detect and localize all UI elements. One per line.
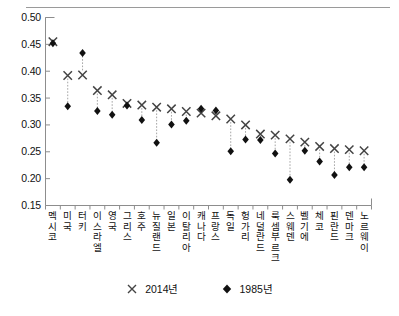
data-point-1985	[153, 139, 160, 147]
data-point-1985	[183, 117, 190, 125]
data-point-2014	[241, 121, 249, 129]
data-point-2014	[360, 147, 368, 155]
x-axis-category-label: 그리스	[121, 211, 134, 243]
x-axis-category-label: 미국	[61, 211, 74, 232]
data-point-2014	[167, 105, 175, 113]
data-point-1985	[227, 147, 234, 155]
x-axis-category-label: 캐나다	[195, 211, 208, 243]
data-point-2014	[315, 142, 323, 150]
y-axis-tick-label: 0.25	[11, 146, 41, 157]
x-axis-category-label: 룩셈부르크	[269, 211, 282, 264]
data-point-1985	[287, 176, 294, 184]
x-axis-category-label: 멕시코	[46, 211, 59, 243]
data-point-1985	[302, 147, 309, 155]
data-point-1985	[242, 135, 249, 143]
y-axis-tick-label: 0.20	[11, 173, 41, 184]
chart-legend: 2014년 1985년	[0, 283, 399, 295]
data-point-1985	[109, 111, 116, 119]
data-point-2014	[108, 91, 116, 99]
data-point-2014	[78, 71, 86, 79]
x-cross-marker-icon	[126, 283, 138, 295]
data-point-1985	[346, 163, 353, 171]
legend-label-1985: 1985년	[240, 284, 273, 295]
data-point-2014	[138, 101, 146, 109]
x-axis-category-label: 일본	[165, 211, 178, 232]
data-point-1985	[272, 149, 279, 157]
data-point-2014	[301, 138, 309, 146]
data-point-2014	[227, 115, 235, 123]
x-axis-category-label: 호주	[135, 211, 148, 232]
y-axis-tick-label: 0.40	[11, 66, 41, 77]
x-axis-category-label: 이탈리아	[180, 211, 193, 253]
legend-item-2014: 2014년	[126, 283, 178, 295]
y-axis-tick-label: 0.15	[11, 200, 41, 211]
x-axis-category-label: 체코	[313, 211, 326, 232]
x-axis-category-label: 프랑스	[209, 211, 222, 243]
x-axis-category-label: 스웨덴	[284, 211, 297, 243]
legend-item-1985: 1985년	[221, 283, 273, 295]
diamond-marker-icon	[221, 283, 233, 295]
data-point-1985	[139, 116, 146, 124]
data-point-1985	[94, 107, 101, 115]
y-axis-tick-label: 0.45	[11, 39, 41, 50]
x-axis-category-label: 이스라엘	[91, 211, 104, 253]
data-point-2014	[152, 103, 160, 111]
data-point-2014	[64, 71, 72, 79]
y-axis-tick-label: 0.35	[11, 93, 41, 104]
data-point-2014	[271, 131, 279, 139]
x-axis-category-label: 네덜란드	[254, 211, 267, 253]
data-point-2014	[286, 135, 294, 143]
x-axis-category-label: 뉴질랜드	[150, 211, 163, 253]
y-axis-tick-label: 0.30	[11, 119, 41, 130]
data-point-1985	[50, 39, 57, 47]
data-point-1985	[316, 157, 323, 165]
y-axis-tick-label: 0.50	[11, 12, 41, 23]
data-point-2014	[182, 107, 190, 115]
data-point-1985	[331, 171, 338, 179]
data-point-1985	[361, 163, 368, 171]
data-point-2014	[93, 86, 101, 94]
data-point-1985	[79, 49, 86, 57]
data-point-1985	[168, 120, 175, 128]
x-axis-category-label: 영국	[106, 211, 119, 232]
data-point-2014	[330, 144, 338, 152]
dot-plot-chart: 0.150.200.250.300.350.400.450.50멕시코미국터키이…	[0, 0, 399, 316]
x-axis-category-label: 핀란드	[328, 211, 341, 243]
data-point-1985	[124, 102, 131, 110]
x-axis-category-label: 벨기에	[298, 211, 311, 243]
data-point-1985	[64, 102, 71, 110]
x-axis-category-label: 노르웨이	[358, 211, 371, 253]
x-axis-category-label: 덴마크	[343, 211, 356, 243]
chart-canvas	[0, 0, 399, 316]
data-point-2014	[345, 145, 353, 153]
x-axis-category-label: 독일	[224, 211, 237, 232]
x-axis-category-label: 터키	[76, 211, 89, 232]
legend-label-2014: 2014년	[145, 284, 178, 295]
x-axis-category-label: 헝가리	[239, 211, 252, 243]
